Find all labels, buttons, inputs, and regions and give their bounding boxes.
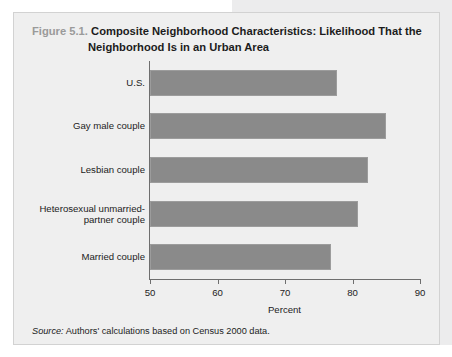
- chart-row: Married couple: [14, 235, 441, 279]
- category-label: Gay male couple: [0, 121, 145, 133]
- x-axis-tick: [420, 279, 421, 284]
- category-label-line: Lesbian couple: [0, 164, 145, 176]
- x-axis-tick-label: 90: [400, 287, 440, 298]
- category-label: Married couple: [0, 251, 145, 263]
- source-label: Source:: [32, 326, 64, 336]
- x-axis-tick-label: 70: [265, 287, 305, 298]
- x-axis-tick-label: 80: [333, 287, 373, 298]
- category-label: Heterosexual unmarried-partner couple: [0, 202, 145, 225]
- x-axis-tick: [150, 279, 151, 284]
- category-label-line: Heterosexual unmarried-: [0, 202, 145, 214]
- category-label-line: partner couple: [0, 214, 145, 226]
- source-note: Source: Authors' calculations based on C…: [32, 326, 270, 336]
- bar: [150, 157, 368, 183]
- x-axis-tick: [285, 279, 286, 284]
- x-axis-tick-label: 60: [198, 287, 238, 298]
- category-label: Lesbian couple: [0, 164, 145, 176]
- plot-area: U.S.Gay male coupleLesbian coupleHeteros…: [14, 13, 441, 346]
- x-axis-title: Percent: [149, 304, 420, 315]
- source-text: Authors' calculations based on Census 20…: [64, 326, 270, 336]
- chart-row: Lesbian couple: [14, 148, 441, 192]
- category-label-line: Gay male couple: [0, 121, 145, 133]
- page-background-bottom: [0, 345, 452, 357]
- bar: [150, 113, 386, 139]
- x-axis-tick-label: 50: [130, 287, 170, 298]
- chart-row: Heterosexual unmarried-partner couple: [14, 192, 441, 236]
- bar: [150, 70, 337, 96]
- category-label-line: U.S.: [0, 77, 145, 89]
- chart-row: U.S.: [14, 61, 441, 105]
- x-axis-tick: [353, 279, 354, 284]
- bar: [150, 201, 358, 227]
- bar: [150, 244, 331, 270]
- figure-panel: Figure 5.1. Composite Neighborhood Chara…: [13, 12, 440, 345]
- figure-screenshot: Figure 5.1. Composite Neighborhood Chara…: [0, 0, 452, 357]
- x-axis-tick: [218, 279, 219, 284]
- chart-row: Gay male couple: [14, 105, 441, 149]
- category-label: U.S.: [0, 77, 145, 89]
- category-label-line: Married couple: [0, 251, 145, 263]
